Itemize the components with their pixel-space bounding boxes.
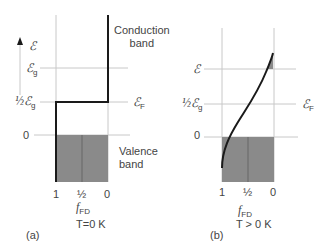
- valence-band-label: Valence band: [119, 145, 158, 171]
- ef-subscript: F: [140, 102, 145, 111]
- energy-axis-label: ℰ: [29, 40, 36, 52]
- ef-level-label-b: ℰF: [302, 98, 314, 110]
- temperature-label-b: T > 0 K: [236, 219, 272, 230]
- ef-symbol: ℰ: [133, 95, 140, 109]
- ef-level-label: ℰF: [133, 96, 145, 108]
- valence-band-label-line1: Valence: [119, 145, 158, 158]
- conduction-band-label-line1: Conduction: [114, 24, 170, 37]
- panel-b-plot: [204, 28, 298, 182]
- ef-symbol: ℰ: [302, 97, 309, 111]
- x-tick-half: ½: [77, 189, 86, 200]
- conduction-band-label-line2: band: [114, 37, 170, 50]
- x-tick-half-b: ½: [243, 187, 252, 198]
- half-eg-level-label-b: ½ℰg: [182, 97, 202, 109]
- energy-axis-arrow-icon: [17, 37, 23, 45]
- panel-a-caption: (a): [26, 230, 39, 241]
- half-eg-subscript: g: [31, 101, 35, 110]
- x-axis-label-b: fFD: [238, 204, 252, 216]
- x-tick-0-b: 0: [270, 187, 276, 198]
- x-tick-1: 1: [53, 189, 59, 200]
- panel-b-caption: (b): [210, 230, 223, 241]
- half-eg-level-label: ½ℰg: [15, 95, 35, 107]
- eg-subscript: g: [33, 68, 37, 77]
- fd-subscript: FD: [79, 207, 90, 216]
- x-axis-label: fFD: [76, 201, 90, 213]
- ef-subscript: F: [309, 104, 314, 113]
- x-tick-0: 0: [104, 189, 110, 200]
- eg-symbol: ℰ: [26, 61, 33, 75]
- temperature-label-a: T=0 K: [76, 219, 106, 230]
- half-eg-symbol: ½ℰ: [182, 96, 198, 110]
- conduction-band-label: Conduction band: [114, 24, 170, 50]
- zero-level-label: 0: [23, 130, 29, 141]
- zero-level-label-b: 0: [194, 130, 200, 141]
- e-level-label: ℰ: [193, 63, 200, 75]
- x-tick-1-b: 1: [219, 187, 225, 198]
- half-eg-subscript: g: [198, 103, 202, 112]
- half-eg-symbol: ½ℰ: [15, 94, 31, 108]
- valence-band-label-line2: band: [119, 158, 158, 171]
- eg-level-label: ℰg: [26, 62, 37, 74]
